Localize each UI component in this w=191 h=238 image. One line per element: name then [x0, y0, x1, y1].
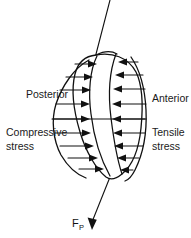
diagram-canvas: Posterior Anterior Compressive stress Te…	[0, 0, 191, 238]
tensile-stress-label-line1: Tensile	[152, 126, 185, 138]
compressive-stress-label-line2: stress	[6, 140, 34, 152]
tensile-stress-label-line2: stress	[152, 140, 180, 152]
force-subscript-label: P	[79, 223, 84, 232]
posterior-label: Posterior	[26, 88, 69, 100]
force-symbol-label: F	[72, 217, 79, 229]
bone-stress-figure: Posterior Anterior Compressive stress Te…	[0, 0, 191, 238]
anterior-label: Anterior	[152, 92, 189, 104]
compressive-stress-label-line1: Compressive	[6, 126, 67, 138]
